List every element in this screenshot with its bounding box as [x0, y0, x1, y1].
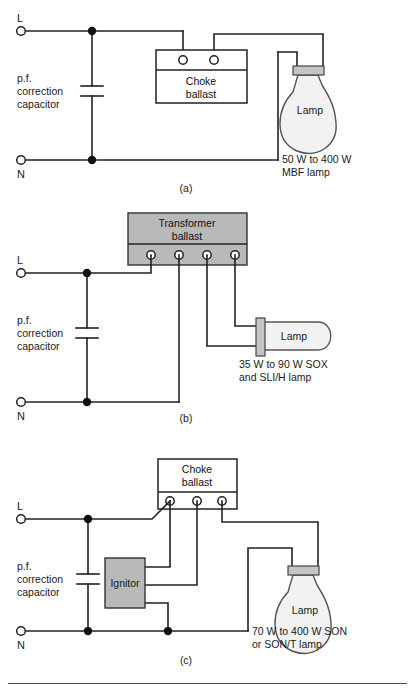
lamp-rating-line2-b: and SLI/H lamp: [239, 371, 312, 383]
circuit-panel-a: L N p.f. correction capacitor Choke ball…: [0, 0, 415, 200]
junction-neutral-ignitor-c: [164, 627, 172, 635]
terminal-neutral-c[interactable]: [17, 627, 26, 636]
ignitor-label-c: Ignitor: [110, 577, 140, 589]
capacitor-label-line3-c: capacitor: [17, 586, 60, 598]
label-live-a: L: [17, 12, 23, 24]
lamp-rating-line1-a: 50 W to 400 W: [282, 153, 352, 165]
capacitor-label-line1-c: p.f.: [17, 560, 32, 572]
choke-ballast-label-line1-c: Choke: [182, 463, 213, 475]
lamp-cap-a: [293, 66, 324, 75]
lamp-rating-line1-c: 70 W to 400 W SON: [252, 625, 347, 637]
capacitor-label-line2-c: correction: [17, 573, 63, 585]
wire-ballast-t3-to-lamp-c: [222, 501, 318, 568]
panel-caption-a: (a): [180, 182, 193, 194]
terminal-live-a[interactable]: [17, 27, 26, 36]
label-neutral-b: N: [17, 410, 25, 422]
terminal-neutral-b[interactable]: [17, 398, 26, 407]
junction-live-c: [84, 515, 92, 523]
figure-root: L N p.f. correction capacitor Choke ball…: [0, 0, 415, 693]
capacitor-label-line3-b: capacitor: [17, 340, 60, 352]
junction-neutral-a: [88, 156, 96, 164]
circuit-panel-b: Transformer ballast L N p.f. correction …: [0, 200, 415, 440]
label-live-c: L: [17, 500, 23, 512]
junction-neutral-b: [83, 398, 91, 406]
ballast-terminal-1-a[interactable]: [179, 56, 187, 64]
lamp-cap-b: [256, 318, 265, 356]
wire-live-rail-c: [26, 501, 170, 519]
panel-caption-b: (b): [180, 412, 193, 424]
junction-neutral-capacitor-c: [84, 627, 92, 635]
lamp-rating-line2-a: MBF lamp: [282, 166, 330, 178]
capacitor-label-line1-a: p.f.: [17, 72, 32, 84]
wire-ballast-t2-to-ignitor-c: [145, 501, 197, 585]
terminal-neutral-a[interactable]: [17, 156, 26, 165]
lamp-label-a: Lamp: [297, 104, 323, 116]
panel-caption-c: (c): [180, 654, 192, 666]
lamp-label-b: Lamp: [281, 330, 307, 342]
wire-ballast-t1-to-ignitor-c: [145, 501, 170, 567]
lamp-rating-line1-b: 35 W to 90 W SOX: [239, 358, 328, 370]
terminal-live-c[interactable]: [17, 515, 26, 524]
lamp-label-c: Lamp: [292, 604, 318, 616]
choke-ballast-label-line2-c: ballast: [182, 476, 212, 488]
junction-live-b: [83, 269, 91, 277]
wire-ignitor-to-neutral-c: [145, 603, 168, 631]
transformer-ballast-label-line2-b: ballast: [172, 230, 202, 242]
choke-ballast-label-line2-a: ballast: [186, 88, 216, 100]
wire-ballast-t3-to-lamp-b: [207, 255, 256, 346]
label-neutral-c: N: [17, 639, 25, 651]
lamp-rating-line2-c: or SON/T lamp: [252, 638, 322, 650]
capacitor-label-line3-a: capacitor: [17, 98, 60, 110]
circuit-panel-c: Choke ballast L N p.f. cor: [0, 440, 415, 693]
capacitor-label-line2-a: correction: [17, 85, 63, 97]
choke-ballast-label-line1-a: Choke: [186, 75, 217, 87]
transformer-ballast-label-line1-b: Transformer: [159, 217, 216, 229]
ballast-terminal-2-a[interactable]: [210, 56, 218, 64]
junction-live-a: [88, 27, 96, 35]
capacitor-label-line1-b: p.f.: [17, 314, 32, 326]
capacitor-label-line2-b: correction: [17, 327, 63, 339]
lamp-cap-c: [288, 566, 319, 575]
label-neutral-a: N: [17, 168, 25, 180]
bottom-divider-rule: [8, 683, 407, 684]
label-live-b: L: [17, 254, 23, 266]
terminal-live-b[interactable]: [17, 269, 26, 278]
